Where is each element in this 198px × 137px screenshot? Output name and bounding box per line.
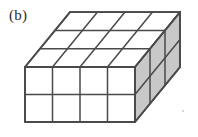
- figure-container: (b): [0, 0, 198, 137]
- cube-block-diagram: [0, 0, 198, 137]
- scan-artifact-speck: [182, 110, 184, 112]
